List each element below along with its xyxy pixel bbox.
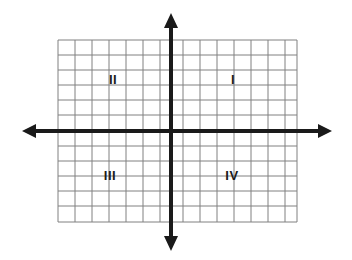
x-axis-arrow-left	[22, 124, 36, 138]
y-axis-arrow-down	[164, 236, 178, 251]
coordinate-plane-canvas	[0, 0, 352, 260]
quadrant-label-i: I	[231, 73, 235, 86]
coordinate-plane-figure: I II III IV	[0, 0, 352, 260]
quadrant-label-iii: III	[104, 169, 116, 182]
quadrant-label-ii: II	[109, 73, 117, 86]
quadrant-label-iv: IV	[225, 169, 238, 182]
y-axis-arrow-up	[164, 13, 178, 28]
x-axis-arrow-right	[318, 124, 332, 138]
